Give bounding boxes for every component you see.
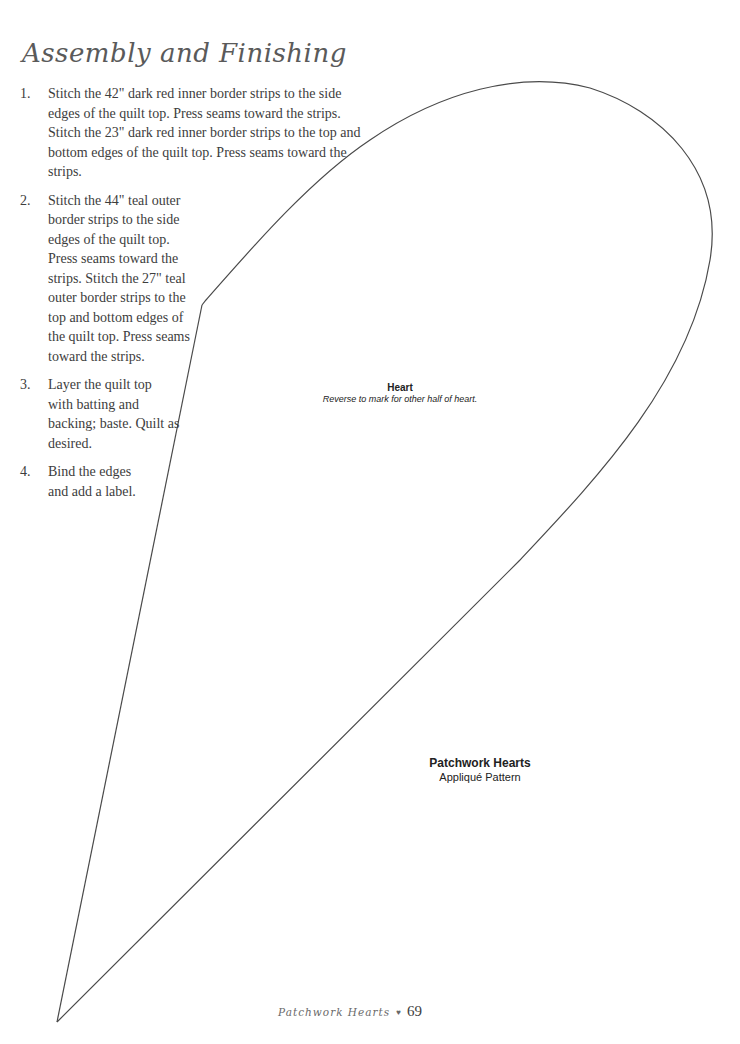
heart-piece-label: Heart Reverse to mark for other half of … <box>300 382 500 404</box>
step-item: 2. Stitch the 44" teal outer border stri… <box>20 191 366 367</box>
pattern-name-label: Patchwork Hearts Appliqué Pattern <box>400 756 560 783</box>
heart-bullet-icon: ♥ <box>396 1008 401 1017</box>
step-text: Stitch the 42" dark red inner border str… <box>48 84 366 182</box>
piece-note: Reverse to mark for other half of heart. <box>300 394 500 404</box>
section-title: Assembly and Finishing <box>22 38 347 68</box>
assembly-steps: 1. Stitch the 42" dark red inner border … <box>20 84 366 510</box>
step-number: 3. <box>20 375 31 395</box>
step-item: 4. Bind the edges and add a label. <box>20 462 366 501</box>
step-number: 2. <box>20 191 31 211</box>
piece-name: Heart <box>300 382 500 393</box>
step-number: 1. <box>20 84 31 104</box>
step-item: 1. Stitch the 42" dark red inner border … <box>20 84 366 182</box>
step-text: Stitch the 44" teal outer border strips … <box>48 191 196 367</box>
step-text: Layer the quilt top with batting and bac… <box>48 375 180 453</box>
page-footer: Patchwork Hearts♥69 <box>240 1003 460 1020</box>
step-text: Bind the edges and add a label. <box>48 462 144 501</box>
step-number: 4. <box>20 462 31 482</box>
pattern-subtitle: Appliqué Pattern <box>400 771 560 783</box>
page-number: 69 <box>407 1003 422 1019</box>
pattern-title: Patchwork Hearts <box>400 756 560 770</box>
footer-book-title: Patchwork Hearts <box>278 1006 390 1018</box>
